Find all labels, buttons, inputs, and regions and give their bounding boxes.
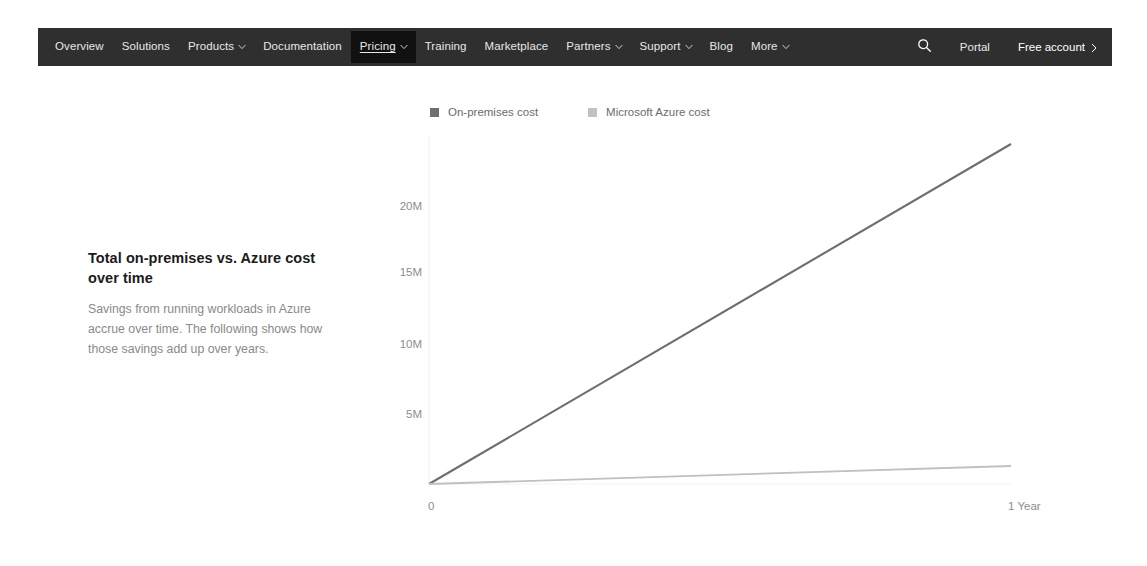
- nav-item-more[interactable]: More: [742, 31, 798, 63]
- chevron-down-icon: [685, 43, 692, 50]
- series-line-on-premises-cost: [429, 144, 1011, 484]
- nav-item-training[interactable]: Training: [416, 31, 476, 63]
- nav-item-label: Support: [640, 41, 681, 53]
- nav-item-label: Partners: [566, 41, 610, 53]
- nav-item-label: Portal: [960, 41, 990, 53]
- nav-item-label: Documentation: [263, 41, 342, 53]
- nav-item-marketplace[interactable]: Marketplace: [476, 31, 558, 63]
- page-description: Savings from running workloads in Azure …: [88, 300, 338, 360]
- chart-plot-area: [380, 96, 1080, 536]
- series-line-microsoft-azure-cost: [429, 466, 1011, 484]
- chevron-down-icon: [400, 43, 407, 50]
- nav-item-pricing[interactable]: Pricing: [351, 31, 416, 63]
- nav-item-products[interactable]: Products: [179, 31, 254, 63]
- nav-item-blog[interactable]: Blog: [701, 31, 742, 63]
- nav-item-label: Marketplace: [485, 41, 549, 53]
- nav-item-portal[interactable]: Portal: [946, 31, 1004, 63]
- nav-item-solutions[interactable]: Solutions: [113, 31, 179, 63]
- chevron-down-icon: [238, 43, 245, 50]
- nav-item-support[interactable]: Support: [631, 31, 701, 63]
- nav-item-label: Products: [188, 41, 234, 53]
- nav-item-label: Training: [425, 41, 467, 53]
- side-copy-block: Total on-premises vs. Azure cost over ti…: [88, 248, 338, 360]
- nav-item-label: Overview: [55, 41, 104, 53]
- nav-item-label: Blog: [710, 41, 733, 53]
- chevron-down-icon: [615, 43, 622, 50]
- nav-item-label: More: [751, 41, 778, 53]
- search-icon: [917, 38, 932, 57]
- nav-item-documentation[interactable]: Documentation: [254, 31, 351, 63]
- cost-over-time-chart: On-premises cost Microsoft Azure cost 20…: [380, 96, 1080, 536]
- nav-item-partners[interactable]: Partners: [557, 31, 630, 63]
- page-title: Total on-premises vs. Azure cost over ti…: [88, 248, 338, 288]
- top-navigation-bar: Overview Solutions Products Documentatio…: [38, 28, 1112, 66]
- nav-primary-links: Overview Solutions Products Documentatio…: [46, 31, 798, 63]
- nav-item-overview[interactable]: Overview: [46, 31, 113, 63]
- chevron-right-icon: [1090, 43, 1098, 52]
- nav-item-label: Free account: [1018, 41, 1085, 53]
- search-button[interactable]: [903, 30, 946, 65]
- nav-utility-links: Portal Free account: [903, 30, 1108, 65]
- nav-item-label: Solutions: [122, 41, 170, 53]
- nav-item-label: Pricing: [360, 41, 396, 53]
- chevron-down-icon: [782, 43, 789, 50]
- nav-item-free-account[interactable]: Free account: [1004, 31, 1108, 63]
